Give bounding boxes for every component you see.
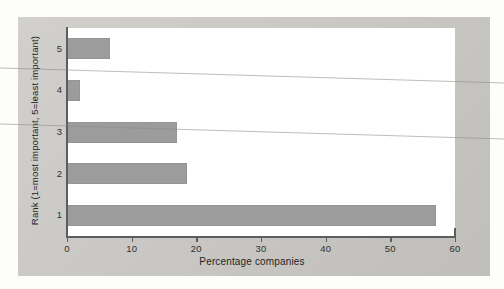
x-tick-20 (196, 237, 197, 242)
bar-rank-5 (67, 38, 110, 59)
x-tick-label-30: 30 (248, 243, 274, 254)
x-tick-40 (326, 237, 327, 242)
bar-rank-1 (67, 205, 436, 226)
x-tick-label-60: 60 (442, 243, 468, 254)
x-tick-label-10: 10 (119, 243, 145, 254)
plot-area (67, 28, 455, 236)
bar-rank-4 (67, 80, 80, 101)
y-tick-label-5: 5 (48, 43, 62, 54)
x-tick-label-20: 20 (183, 243, 209, 254)
scanned-page: 0102030405060 12345 Percentage companies… (0, 0, 504, 289)
y-tick-label-3: 3 (48, 126, 62, 137)
y-tick-label-2: 2 (48, 168, 62, 179)
x-tick-0 (67, 237, 68, 242)
x-tick-10 (132, 237, 133, 242)
bar-rank-2 (67, 163, 187, 184)
x-tick-label-50: 50 (377, 243, 403, 254)
x-axis-title: Percentage companies (0, 256, 504, 267)
x-tick-30 (261, 237, 262, 242)
y-tick-label-1: 1 (48, 209, 62, 220)
y-tick-label-4: 4 (48, 84, 62, 95)
y-axis-line (66, 27, 68, 237)
x-axis-right-tick (454, 228, 456, 237)
bar-rank-3 (67, 122, 177, 143)
y-axis-title: Rank (1=most important, 5=least importan… (29, 31, 40, 231)
x-tick-label-0: 0 (54, 243, 80, 254)
x-tick-50 (390, 237, 391, 242)
x-tick-label-40: 40 (313, 243, 339, 254)
x-tick-60 (455, 237, 456, 242)
